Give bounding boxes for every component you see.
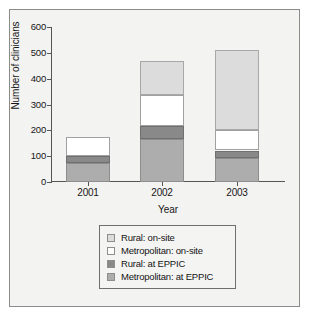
y-tick-mark: [47, 182, 52, 183]
bar-segment: [215, 158, 259, 182]
legend-item: Metropolitan: on-site: [107, 244, 229, 257]
legend-item-label: Metropolitan: at EPPIC: [121, 272, 213, 282]
bar-segment: [66, 156, 110, 163]
legend-swatch-icon: [107, 273, 115, 281]
legend-item: Rural: on-site: [107, 231, 229, 244]
y-tick-label: 100: [6, 151, 46, 160]
bar-segment: [140, 139, 184, 182]
legend-swatch-icon: [107, 247, 115, 255]
legend-item: Rural: at EPPIC: [107, 257, 229, 270]
y-tick-label: 400: [6, 74, 46, 83]
bar-segment: [215, 50, 259, 130]
bar-segment: [140, 126, 184, 139]
legend-item-label: Rural: at EPPIC: [121, 259, 185, 269]
y-tick-label: 200: [6, 125, 46, 134]
bar-segment: [215, 130, 259, 150]
legend-swatch-icon: [107, 260, 115, 268]
bar-2001: [66, 27, 110, 182]
legend-item-label: Rural: on-site: [121, 233, 175, 243]
x-tick-label: 2003: [207, 187, 267, 198]
x-tick-mark: [162, 182, 163, 186]
bar-segment: [140, 61, 184, 95]
y-tick-label: 300: [6, 100, 46, 109]
bar-segment: [215, 151, 259, 158]
legend-item: Metropolitan: at EPPIC: [107, 270, 229, 283]
legend-swatch-icon: [107, 234, 115, 242]
bar-2002: [140, 27, 184, 182]
x-tick-label: 2001: [58, 187, 118, 198]
bar-2003: [215, 27, 259, 182]
chart-legend: Rural: on-siteMetropolitan: on-siteRural…: [99, 225, 236, 289]
x-tick-mark: [88, 182, 89, 186]
plot-area: [51, 27, 285, 182]
bar-segment: [66, 137, 110, 156]
legend-item-label: Metropolitan: on-site: [121, 246, 203, 256]
x-axis-label: Year: [51, 204, 285, 215]
y-tick-label: 600: [6, 22, 46, 31]
x-tick-label: 2002: [132, 187, 192, 198]
bar-segment: [140, 95, 184, 126]
y-tick-label: 0: [6, 177, 46, 186]
y-tick-label: 500: [6, 48, 46, 57]
figure: Number of clinicians 0100200300400500600…: [0, 0, 309, 316]
x-tick-mark: [237, 182, 238, 186]
bar-segment: [66, 163, 110, 182]
